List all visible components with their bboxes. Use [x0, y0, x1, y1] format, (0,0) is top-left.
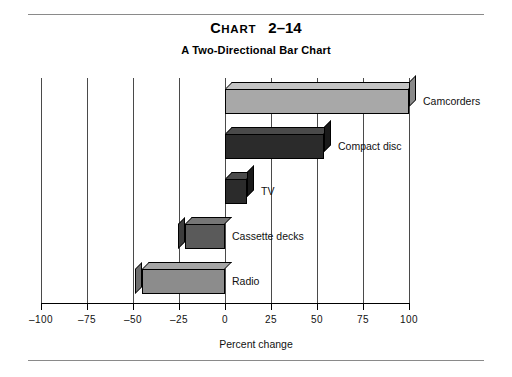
bar-side-face: [409, 75, 416, 107]
bar-side-face: [324, 120, 331, 152]
x-tick: [87, 303, 88, 310]
bar-label: Compact disc: [338, 140, 402, 152]
x-axis-title: Percent change: [0, 338, 512, 350]
x-axis-line: [41, 303, 409, 304]
gridline-neg50: [133, 78, 134, 303]
bar-side-face: [247, 165, 254, 197]
bar-front-face: [225, 179, 247, 204]
x-tick: [225, 303, 226, 310]
bar-top-face: [142, 262, 232, 269]
x-tick: [271, 303, 272, 310]
bar-front-face: [225, 134, 324, 159]
bar-front-face: [142, 269, 225, 294]
bar-front-face: [185, 224, 225, 249]
x-tick: [409, 303, 410, 310]
bar-top-face: [225, 82, 416, 89]
bar-label: Cassette decks: [232, 230, 304, 242]
x-tick: [179, 303, 180, 310]
bar-label: Radio: [232, 275, 259, 287]
gridline-neg75: [87, 78, 88, 303]
plot-area: Percent change –100–75–50–250255075100Ca…: [0, 0, 512, 377]
x-tick: [363, 303, 364, 310]
bar-top-face: [225, 127, 331, 134]
gridline-neg100: [41, 78, 42, 303]
bar-label: Camcorders: [423, 95, 480, 107]
chart-figure: CHART2–14 A Two-Directional Bar Chart Pe…: [0, 0, 512, 377]
bar-side-face: [135, 262, 142, 294]
x-tick: [41, 303, 42, 310]
gridline-100: [409, 78, 410, 303]
bar-top-face: [185, 217, 232, 224]
x-tick: [317, 303, 318, 310]
x-tick-label: 100: [381, 314, 437, 325]
bar-front-face: [225, 89, 409, 114]
bar-side-face: [178, 217, 185, 249]
bar-label: TV: [261, 185, 274, 197]
x-tick: [133, 303, 134, 310]
